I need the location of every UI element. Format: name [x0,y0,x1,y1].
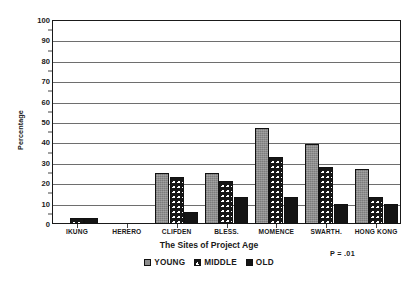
bars-layer [52,20,401,224]
legend-label: MIDDLE [204,258,237,267]
y-axis-tick-labels: 0102030405060708090100 [0,20,50,224]
legend-swatch-old-icon [246,259,253,266]
y-axis-tick-label: 100 [4,16,50,25]
legend-label: YOUNG [154,258,185,267]
y-axis-tick-label: 40 [4,138,50,147]
legend-item-middle: MIDDLE [194,258,237,267]
x-axis-label-clifden: CLIFDEN [162,228,192,235]
y-axis-tick-label: 80 [4,56,50,65]
bar-middle-clifden [170,177,184,224]
bar-old-clifden [184,212,198,224]
legend-swatch-young-icon [144,259,151,266]
bar-old-bless [234,197,248,224]
bar-old-ikung [84,218,98,224]
y-axis-tick-label: 60 [4,97,50,106]
bar-group [52,20,102,224]
bar-group [301,20,351,224]
y-axis-tick-label: 90 [4,36,50,45]
legend-swatch-middle-icon [194,259,201,266]
bar-young-hong-kong [355,169,369,224]
bar-young-swarth [305,144,319,224]
x-axis-label-swarth: SWARTH. [310,228,341,235]
legend-label: OLD [256,258,274,267]
x-axis-label-herero: HERERO [112,228,141,235]
y-axis-tick-label: 50 [4,118,50,127]
x-axis-category-labels: IKUNGHEREROCLIFDENBLESS.MOMENCESWARTH.HO… [52,228,401,240]
bar-old-swarth [334,204,348,224]
bar-old-momence [284,197,298,224]
bar-middle-momence [269,157,283,224]
legend-item-old: OLD [246,258,274,267]
bar-group [351,20,401,224]
y-axis-tick-label: 0 [4,220,50,229]
x-axis-label-momence: MOMENCE [259,228,294,235]
bar-group [202,20,252,224]
x-axis-title: The Sites of Project Age [0,240,418,250]
bar-group [102,20,152,224]
y-axis-tick-label: 20 [4,179,50,188]
bar-middle-swarth [319,167,333,224]
legend-item-young: YOUNG [144,258,185,267]
bar-young-bless [205,173,219,224]
y-axis-tick-label: 70 [4,77,50,86]
x-axis-label-ikung: IKUNG [66,228,88,235]
y-axis-tick-label: 10 [4,199,50,208]
bar-middle-bless [219,181,233,224]
x-axis-label-bless: BLESS. [214,228,239,235]
bar-old-hong-kong [384,204,398,224]
bar-group [152,20,202,224]
y-axis-tick-label: 30 [4,158,50,167]
p-value-annotation: P = .01 [330,249,355,258]
chart-legend: YOUNGMIDDLEOLD [0,258,418,267]
bar-group [251,20,301,224]
bar-chart: Percentage 0102030405060708090100 IKUNGH… [0,0,418,282]
bar-young-momence [255,128,269,224]
x-axis-label-hong-kong: HONG KONG [355,228,398,235]
bar-middle-hong-kong [369,197,383,224]
bar-young-clifden [155,173,169,224]
